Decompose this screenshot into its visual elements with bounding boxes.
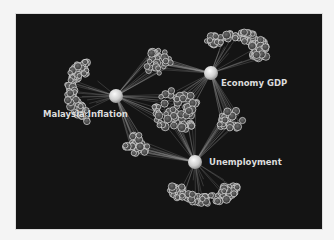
edge-unemployment-c-center bbox=[195, 106, 196, 162]
cluster-bubble bbox=[234, 184, 240, 190]
cluster-bubble bbox=[189, 99, 196, 106]
cluster-bubble bbox=[155, 112, 163, 120]
cluster-bubble bbox=[251, 32, 255, 36]
cluster-bubble bbox=[164, 115, 172, 123]
cluster-bubble bbox=[171, 122, 178, 129]
cluster-bubble bbox=[218, 40, 223, 45]
cluster-bubble bbox=[200, 196, 205, 201]
cluster-bubble bbox=[227, 125, 233, 131]
hub-node-inflation bbox=[109, 89, 123, 103]
cluster-bubble bbox=[232, 35, 238, 41]
cluster-bubble bbox=[253, 51, 260, 58]
cluster-bubble bbox=[179, 184, 185, 190]
cluster-bubble bbox=[242, 39, 248, 45]
cluster-bubble bbox=[208, 193, 213, 198]
cluster-c-unemployment-outer bbox=[167, 183, 240, 207]
cluster-bubble bbox=[223, 31, 231, 39]
cluster-bubble bbox=[231, 191, 237, 197]
cluster-bubble bbox=[174, 96, 180, 102]
cluster-bubble bbox=[64, 97, 71, 104]
cluster-bubble bbox=[83, 59, 88, 64]
cluster-bubble bbox=[189, 191, 195, 197]
cluster-bubble bbox=[68, 78, 73, 83]
cluster-bubble bbox=[136, 133, 142, 139]
cluster-bubble bbox=[168, 88, 174, 94]
cluster-bubble bbox=[217, 122, 222, 127]
cluster-bubble bbox=[168, 183, 176, 191]
edge-inflation-c-inflation-gdp bbox=[116, 72, 158, 96]
cluster-bubble bbox=[157, 71, 161, 75]
cluster-c-gdp-outer bbox=[204, 29, 269, 62]
cluster-bubble bbox=[123, 143, 128, 148]
hub-node-unemployment bbox=[188, 155, 202, 169]
cluster-bubble bbox=[74, 63, 81, 70]
cluster-bubble bbox=[222, 117, 228, 123]
cluster-bubble bbox=[262, 44, 269, 51]
cluster-bubble bbox=[156, 66, 161, 71]
cluster-bubble bbox=[185, 108, 192, 115]
cluster-bubble bbox=[213, 34, 219, 40]
network-diagram: Malaysia Inflation Economy GDP Unemploym… bbox=[0, 0, 334, 240]
cluster-bubble bbox=[152, 105, 156, 109]
cluster-bubble bbox=[234, 123, 242, 131]
cluster-bubble bbox=[222, 189, 227, 194]
cluster-bubble bbox=[136, 143, 144, 151]
cluster-bubble bbox=[239, 117, 245, 123]
cluster-c-inflation-unemployment bbox=[123, 132, 150, 156]
cluster-c-inflation-gdp bbox=[144, 48, 173, 75]
cluster-bubble bbox=[223, 196, 231, 204]
cluster-bubble bbox=[180, 193, 185, 198]
cluster-bubble bbox=[207, 38, 212, 43]
hub-label-unemployment: Unemployment bbox=[209, 157, 282, 167]
cluster-bubble bbox=[163, 58, 169, 64]
cluster-bubble bbox=[67, 90, 74, 97]
hub-label-inflation: Malaysia Inflation bbox=[43, 109, 128, 119]
cluster-bubble bbox=[148, 50, 156, 58]
cluster-bubble bbox=[188, 123, 194, 129]
cluster-bubble bbox=[224, 108, 232, 116]
cluster-bubble bbox=[170, 107, 176, 113]
cluster-bubble bbox=[77, 74, 82, 79]
cluster-bubble bbox=[161, 100, 168, 107]
cluster-bubble bbox=[145, 144, 150, 149]
cluster-bubble bbox=[81, 71, 86, 76]
cluster-bubble bbox=[187, 92, 194, 99]
cluster-bubble bbox=[215, 198, 221, 204]
hub-node-gdp bbox=[204, 66, 218, 80]
cluster-bubble bbox=[159, 95, 164, 100]
cluster-bubble bbox=[144, 64, 150, 70]
hub-label-gdp: Economy GDP bbox=[221, 78, 287, 88]
cluster-bubble bbox=[78, 104, 83, 109]
cluster-bubble bbox=[157, 123, 162, 128]
cluster-bubble bbox=[241, 29, 247, 35]
cluster-bubble bbox=[178, 124, 186, 132]
cluster-bubble bbox=[180, 95, 187, 102]
cluster-bubble bbox=[68, 71, 72, 75]
cluster-bubble bbox=[147, 59, 152, 64]
